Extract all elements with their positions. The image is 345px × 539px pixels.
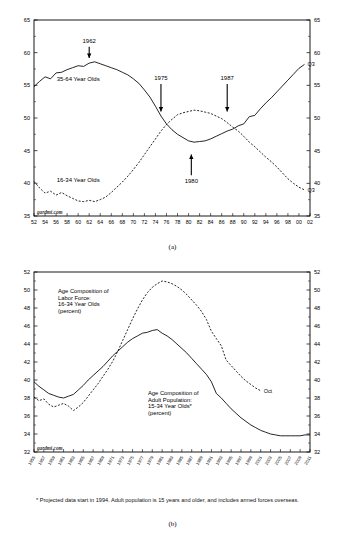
panel-b-caption: (b): [0, 520, 345, 528]
x-axis-label: 2011: [303, 455, 312, 466]
annotation-arrow-head-2: [225, 107, 229, 112]
x-axis-label: 1981: [155, 455, 164, 466]
x-axis-label: 1991: [205, 455, 214, 466]
y-axis-label-left: 32: [24, 449, 30, 455]
x-axis-label: 1973: [116, 455, 125, 466]
series-line-1: [34, 110, 304, 201]
y-axis-label-left: 38: [24, 395, 30, 401]
x-axis-label: 1997: [234, 455, 243, 466]
plot-frame: [34, 20, 310, 216]
y-axis-label-left: 40: [24, 377, 30, 383]
x-axis-label: 1985: [175, 455, 184, 466]
y-axis-label-right: 50: [314, 287, 320, 293]
x-axis-label: 1979: [145, 455, 154, 466]
x-axis-label: 1967: [86, 455, 95, 466]
y-axis-label-right: 52: [314, 269, 320, 275]
x-axis-label: 74: [153, 219, 159, 225]
x-axis-label: 1975: [126, 455, 135, 466]
y-axis-label-right: 38: [314, 395, 320, 401]
x-axis-label: 86: [219, 219, 225, 225]
x-axis-label: 1957: [37, 455, 46, 466]
panel-a-chart: 3535404045455050555560606565525456586062…: [0, 0, 345, 240]
series-line-1: [34, 330, 310, 436]
x-axis-label: 00: [296, 219, 302, 225]
series-label-0-line-2: 16-34 Year Olds: [58, 301, 100, 307]
x-axis-label: 1977: [136, 455, 145, 466]
series-label-0: 35-64 Year Olds: [57, 76, 100, 82]
series-endpoint-label-1: Q3: [307, 187, 314, 193]
y-axis-label-right: 36: [314, 413, 320, 419]
annotation-arrow-head-3: [189, 155, 193, 160]
series-label-0-line-1: Labor Force:: [58, 295, 91, 301]
series-label-1-line-3: (percent): [148, 410, 171, 416]
x-axis-label: 1969: [96, 455, 105, 466]
x-axis-label: 98: [285, 219, 291, 225]
y-axis-label-right: 50: [314, 115, 320, 121]
panel-b-chart: 3232343436363838404042424444464648485050…: [0, 262, 345, 497]
y-axis-label-right: 60: [314, 50, 320, 56]
series-endpoint-label-0: Q3: [307, 61, 314, 67]
x-axis-label: 02: [307, 219, 313, 225]
y-axis-label-left: 45: [24, 148, 30, 154]
x-axis-label: 2007: [283, 455, 292, 466]
y-axis-label-left: 65: [24, 17, 30, 23]
x-axis-label: 1983: [165, 455, 174, 466]
x-axis-label: 76: [164, 219, 170, 225]
y-axis-label-right: 45: [314, 148, 320, 154]
annotation-label-2: 1987: [221, 75, 235, 81]
y-axis-label-left: 46: [24, 323, 30, 329]
annotation-arrow-head-0: [87, 53, 91, 58]
x-axis-label: 88: [230, 219, 236, 225]
x-axis-label: 80: [186, 219, 192, 225]
x-axis-label: 68: [119, 219, 125, 225]
y-axis-label-left: 50: [24, 115, 30, 121]
series-label-1-line-0: Age Composition of: [148, 390, 199, 396]
x-axis-label: 70: [130, 219, 136, 225]
y-axis-label-left: 60: [24, 50, 30, 56]
series-label-0-line-0: Age Composition of: [58, 288, 109, 294]
x-axis-label: 60: [75, 219, 81, 225]
series-label-1-line-2: 15-34 Year Olds*: [148, 403, 193, 409]
y-axis-label-right: 42: [314, 359, 320, 365]
y-axis-label-right: 48: [314, 305, 320, 311]
x-axis-label: 1995: [224, 455, 233, 466]
panel-a-figure: 3535404045455050555560606565525456586062…: [0, 0, 345, 262]
panel-a-caption: (a): [0, 243, 345, 251]
annotation-label-3: 1980: [185, 178, 199, 184]
y-axis-label-left: 35: [24, 213, 30, 219]
x-axis-label: 1993: [214, 455, 223, 466]
y-axis-label-left: 52: [24, 269, 30, 275]
x-axis-label: 2003: [264, 455, 273, 466]
x-axis-label: 1959: [47, 455, 56, 466]
y-axis-label-right: 55: [314, 82, 320, 88]
annotation-label-0: 1962: [83, 38, 97, 44]
x-axis-label: 62: [86, 219, 92, 225]
series-label-0-line-3: (percent): [58, 308, 81, 314]
y-axis-label-left: 48: [24, 305, 30, 311]
y-axis-label-right: 40: [314, 377, 320, 383]
x-axis-label: 78: [175, 219, 181, 225]
annotation-arrow-head-1: [159, 107, 163, 112]
y-axis-label-left: 34: [24, 431, 30, 437]
x-axis-label: 2005: [274, 455, 283, 466]
x-axis-label: 1987: [185, 455, 194, 466]
y-axis-label-left: 40: [24, 180, 30, 186]
x-axis-label: 72: [142, 219, 148, 225]
x-axis-label: 1965: [76, 455, 85, 466]
x-axis-label: 84: [208, 219, 214, 225]
x-axis-label: 96: [274, 219, 280, 225]
y-axis-label-left: 55: [24, 82, 30, 88]
y-axis-label-left: 44: [24, 341, 30, 347]
y-axis-label-right: 32: [314, 449, 320, 455]
y-axis-label-right: 35: [314, 213, 320, 219]
y-axis-label-left: 36: [24, 413, 30, 419]
x-axis-label: 1961: [57, 455, 66, 466]
x-axis-label: 94: [263, 219, 269, 225]
x-axis-label: 1963: [67, 455, 76, 466]
y-axis-label-right: 65: [314, 17, 320, 23]
annotation-label-1: 1975: [154, 75, 168, 81]
x-axis-label: 1989: [195, 455, 204, 466]
x-axis-label: 2001: [254, 455, 263, 466]
x-axis-label: 2009: [293, 455, 302, 466]
x-axis-label: 1955: [27, 455, 36, 466]
